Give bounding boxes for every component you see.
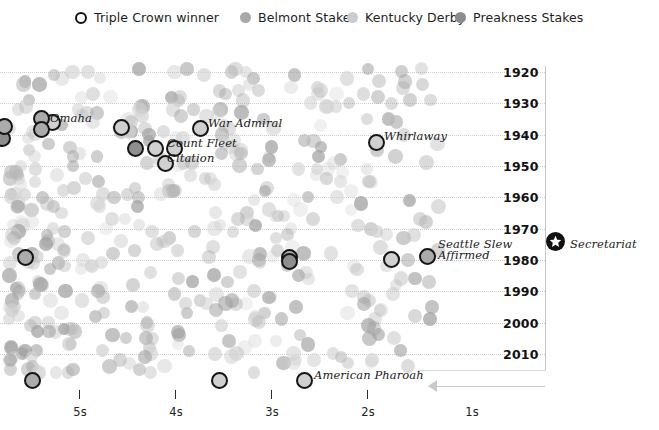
triple-crown-winner-marker[interactable]: [192, 120, 209, 137]
triple-crown-winner-marker[interactable]: [33, 121, 50, 138]
data-point: [12, 103, 25, 116]
data-point: [202, 250, 216, 264]
data-point: [172, 338, 184, 350]
data-point: [16, 77, 30, 91]
data-point: [284, 81, 298, 95]
dot-marker-icon: [455, 12, 466, 23]
data-point: [10, 200, 24, 214]
data-point: [154, 187, 167, 200]
data-point: [229, 297, 243, 311]
data-point: [55, 71, 70, 86]
data-point: [107, 191, 120, 204]
data-point: [208, 347, 222, 361]
data-point: [270, 335, 282, 347]
data-point: [304, 96, 318, 110]
data-point: [138, 350, 153, 365]
data-point: [28, 150, 42, 164]
data-point: [157, 359, 172, 374]
legend-item-preakness-stakes[interactable]: Preakness Stakes: [455, 10, 583, 25]
data-point: [424, 94, 436, 106]
data-point: [224, 349, 239, 364]
xlabel-2s: 2s: [361, 405, 374, 419]
year-label-1990: 1990: [503, 284, 539, 299]
data-point: [287, 356, 300, 369]
year-label-1980: 1980: [503, 253, 539, 268]
data-point: [386, 287, 400, 301]
legend-item-belmont-stakes[interactable]: Belmont Stakes: [240, 10, 357, 25]
triple-crown-winner-marker[interactable]: [127, 140, 144, 157]
data-point: [132, 62, 146, 76]
data-point: [58, 284, 73, 299]
data-point: [249, 219, 262, 232]
data-point: [81, 231, 95, 245]
data-point: [298, 134, 311, 147]
data-point: [344, 184, 357, 197]
data-point: [93, 200, 106, 213]
data-point: [403, 93, 417, 107]
data-point: [43, 293, 58, 308]
secretariat-star-icon[interactable]: [546, 232, 565, 251]
data-point: [252, 315, 266, 329]
data-point: [225, 65, 238, 78]
data-point: [75, 91, 88, 104]
data-point: [408, 309, 423, 324]
triple-crown-winner-marker[interactable]: [281, 253, 298, 270]
data-point: [232, 158, 247, 173]
data-point: [187, 103, 200, 116]
data-point: [306, 212, 320, 226]
triple-crown-winner-marker[interactable]: [419, 248, 436, 265]
data-point: [221, 276, 233, 288]
triple-crown-winner-marker[interactable]: [368, 134, 385, 151]
data-point: [75, 263, 87, 275]
data-point: [372, 74, 386, 88]
data-point: [119, 213, 131, 225]
data-point: [58, 225, 71, 238]
data-point: [296, 246, 311, 261]
data-point: [44, 263, 56, 275]
data-point: [140, 156, 154, 170]
xlabel-1s: 1s: [465, 405, 478, 419]
xlabel-4s: 4s: [169, 405, 182, 419]
data-point: [125, 300, 138, 313]
data-point: [302, 273, 314, 285]
data-point: [91, 150, 103, 162]
dot-marker-icon: [240, 12, 251, 23]
chart-legend: Triple Crown winner Belmont Stakes Kentu…: [0, 8, 659, 34]
data-point: [96, 344, 109, 357]
xtick-5s: [79, 390, 80, 399]
data-point: [408, 272, 422, 286]
triple-crown-winner-marker[interactable]: [383, 251, 400, 268]
annotation-citation: Citation: [167, 151, 214, 165]
triple-crown-winner-marker[interactable]: [147, 140, 164, 157]
legend-item-kentucky-derby[interactable]: Kentucky Derby: [347, 10, 465, 25]
annotation-war-admiral: War Admiral: [208, 116, 282, 130]
axis-arrow-line: [437, 386, 545, 387]
data-point: [361, 163, 373, 175]
annotation-affirmed: Affirmed: [438, 248, 490, 262]
year-label-2000: 2000: [503, 316, 539, 331]
data-point: [394, 344, 407, 357]
data-point: [42, 325, 55, 338]
data-point: [248, 366, 261, 379]
xtick-4s: [175, 390, 176, 399]
data-point: [103, 90, 118, 105]
data-point: [99, 222, 113, 236]
data-point: [29, 176, 41, 188]
data-point: [94, 72, 106, 84]
gridline-2000: [0, 323, 545, 324]
data-point: [188, 225, 200, 237]
annotation-american-pharoah: American Pharoah: [314, 368, 424, 382]
data-point: [131, 200, 144, 213]
data-point: [343, 97, 355, 109]
ring-marker-icon: [75, 12, 87, 24]
data-point: [58, 260, 71, 273]
data-point: [351, 219, 365, 233]
data-point: [209, 303, 223, 317]
legend-item-triple-crown-winner[interactable]: Triple Crown winner: [75, 10, 219, 25]
data-point: [233, 265, 247, 279]
triple-crown-winner-marker[interactable]: [17, 249, 34, 266]
data-point: [345, 204, 357, 216]
triple-crown-winner-marker[interactable]: [113, 119, 130, 136]
data-point: [50, 168, 64, 182]
data-point: [390, 115, 403, 128]
